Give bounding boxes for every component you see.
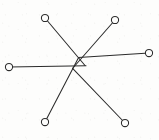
graph-node[interactable] (111, 16, 118, 23)
graph-node[interactable] (145, 49, 152, 56)
graph-node[interactable] (5, 63, 12, 70)
graph-node[interactable] (41, 118, 48, 125)
figure-root (0, 0, 159, 140)
figure-background (0, 0, 159, 140)
graph-canvas (0, 0, 159, 140)
graph-node[interactable] (41, 14, 48, 21)
graph-node[interactable] (121, 119, 128, 126)
